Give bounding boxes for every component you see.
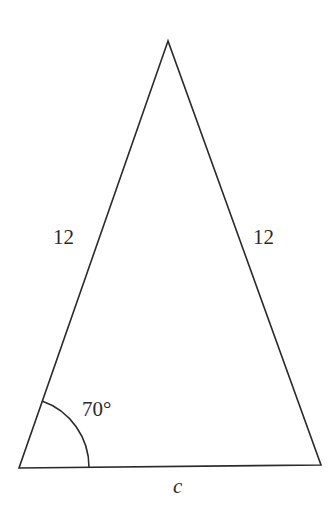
left-side-label: 12 — [53, 225, 74, 249]
triangle-diagram: 12 12 70° c — [0, 0, 335, 514]
right-side-label: 12 — [253, 225, 274, 249]
angle-label: 70° — [82, 397, 111, 421]
triangle-outline — [19, 41, 321, 468]
base-label: c — [173, 474, 183, 498]
